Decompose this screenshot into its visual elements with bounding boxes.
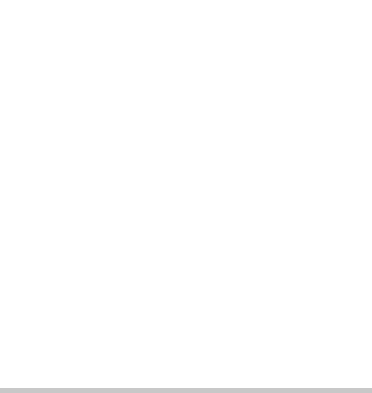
bottom-band xyxy=(0,388,372,393)
3d-bar-chart xyxy=(0,0,372,393)
